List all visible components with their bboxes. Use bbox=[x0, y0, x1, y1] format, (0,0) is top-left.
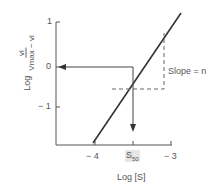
y-axis-numerator: vi bbox=[17, 48, 27, 58]
hill-line bbox=[93, 13, 181, 143]
hill-plot-canvas bbox=[0, 0, 216, 189]
slope-label: Slope = n bbox=[168, 66, 206, 76]
slope-triangle bbox=[112, 33, 164, 89]
x-axis-label: Log [S] bbox=[117, 172, 146, 182]
s50-sub: 50 bbox=[132, 156, 139, 162]
y-axis-fraction: vi Vmax − vi bbox=[17, 33, 36, 72]
y-tick-label-1: 1 bbox=[47, 16, 52, 26]
y-axis-label-log: Log bbox=[21, 76, 31, 91]
y-axis-label: Log vi Vmax − vi bbox=[2, 32, 50, 92]
x-tick-label-minus3: − 3 bbox=[164, 151, 177, 161]
x-tick-label-minus4: − 4 bbox=[86, 151, 99, 161]
arrowhead-left-icon bbox=[58, 64, 66, 70]
y-axis-denominator: Vmax − vi bbox=[27, 33, 36, 72]
y-tick-label-minus1: − 1 bbox=[38, 101, 51, 111]
arrowhead-down-icon bbox=[130, 124, 136, 132]
x-tick-label-s50: S50 bbox=[125, 150, 140, 162]
